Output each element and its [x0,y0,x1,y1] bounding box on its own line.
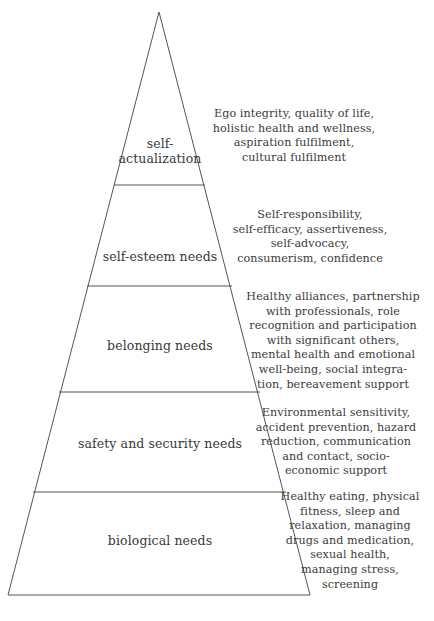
tier-description-safety-and-security: Environmental sensitivity, accident prev… [240,406,432,479]
hierarchy-of-needs-diagram: self- actualization self-esteem needs be… [0,0,434,621]
tier-description-belonging: Healthy alliances, partnership with prof… [234,290,432,392]
tier-label-belonging: belonging needs [56,338,264,353]
tier-description-biological: Healthy eating, physical fitness, sleep … [268,490,432,592]
tier-description-self-actualization: Ego integrity, quality of life, holistic… [196,107,392,165]
tier-description-self-esteem: Self-responsibility, self-efficacy, asse… [212,208,408,266]
tier-label-biological: biological needs [24,533,296,548]
